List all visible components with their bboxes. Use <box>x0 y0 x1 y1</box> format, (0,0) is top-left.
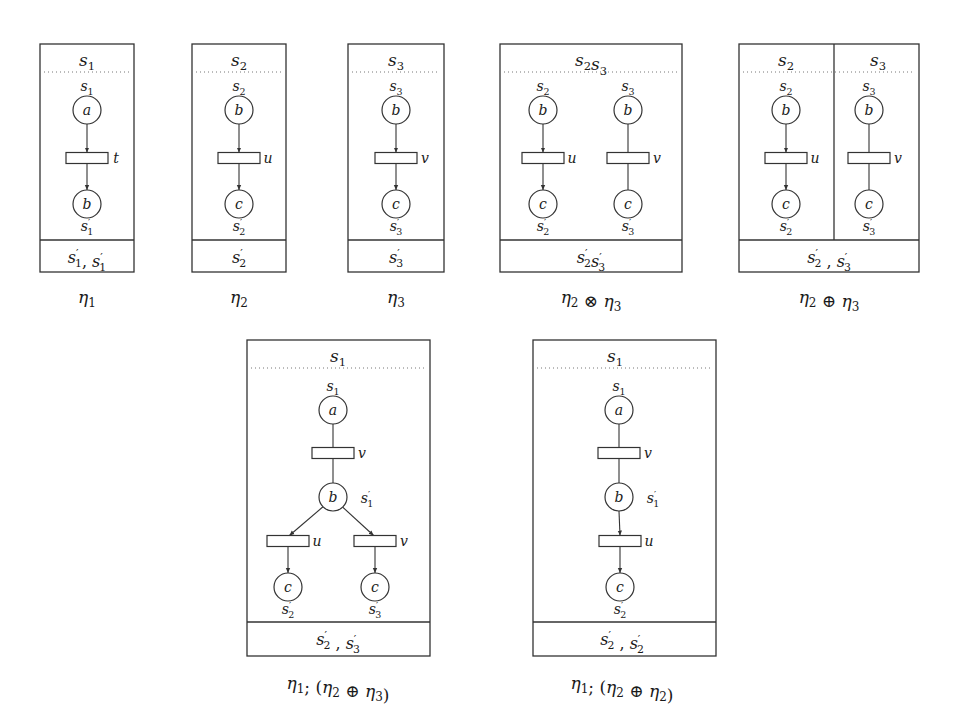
footer-state-label: s′2s′3 <box>577 247 605 274</box>
transition-label: v <box>400 533 408 549</box>
place-label: c <box>539 196 547 212</box>
place-label: b <box>83 196 92 212</box>
panel-caption: η3 <box>387 287 405 310</box>
petri-net-composition-figure: s1s′1, s′1as1tbs′1η1s2s′2bs2ucs′2η2s3s′3… <box>0 0 956 723</box>
transition-label: u <box>810 150 819 166</box>
panel-eta1: s1s′1, s′1as1tbs′1η1 <box>40 44 134 310</box>
place-state-label: s′2 <box>537 217 549 236</box>
place-label: b <box>235 102 244 118</box>
transition-box <box>522 153 564 164</box>
place-label: c <box>235 196 243 212</box>
place-state-label: s′3 <box>369 600 381 619</box>
place-state-label: s′1 <box>647 489 659 508</box>
transition-label: u <box>312 533 321 549</box>
place-state-label: s1 <box>80 78 93 97</box>
transition-box <box>375 153 417 164</box>
place-label: c <box>865 196 873 212</box>
transition-label: v <box>894 150 902 166</box>
header-state-label: s1 <box>330 346 346 369</box>
place-state-label: s2 <box>536 78 549 97</box>
place-label: c <box>371 579 379 595</box>
panel-caption: η1; (η2 ⊕ η2) <box>571 673 674 705</box>
panel-eta1-seq-eta2-oplus-eta3: s1s′2 , s′3as1vbs′1uvcs′2cs′3η1; (η2 ⊕ η… <box>247 340 430 705</box>
footer-state-label: s′2 , s′3 <box>316 629 360 656</box>
footer-state-label: s′3 <box>389 247 403 270</box>
place-state-label: s′2 <box>614 600 626 619</box>
transition-label: u <box>263 150 272 166</box>
transition-box <box>354 536 396 547</box>
place-label: a <box>615 402 623 418</box>
place-state-label: s3 <box>862 78 875 97</box>
transition-box <box>218 153 260 164</box>
place-state-label: s′1 <box>361 489 373 508</box>
place-state-label: s′1 <box>81 217 93 236</box>
place-label: b <box>329 489 338 505</box>
place-label: c <box>782 196 790 212</box>
header-state-label: s3 <box>388 50 404 73</box>
header-state-label: s3 <box>870 50 886 73</box>
transition-box <box>312 448 354 459</box>
flow-arc <box>343 507 374 535</box>
panel-caption: η2 <box>230 287 248 310</box>
place-label: b <box>615 489 624 505</box>
footer-state-label: s′2 <box>232 247 246 270</box>
header-state-label: s2s3 <box>575 50 607 78</box>
footer-state-label: s′2 , s′2 <box>600 629 644 656</box>
transition-box <box>598 448 640 459</box>
place-label: c <box>624 196 632 212</box>
place-label: c <box>616 579 624 595</box>
place-state-label: s′2 <box>780 217 792 236</box>
transition-box <box>267 536 309 547</box>
place-label: b <box>624 102 633 118</box>
panel-eta2: s2s′2bs2ucs′2η2 <box>192 44 286 310</box>
panel-eta3: s3s′3bs3vcs′3η3 <box>348 44 444 310</box>
header-state-label: s2 <box>231 50 247 73</box>
transition-box <box>607 153 649 164</box>
place-label: b <box>782 102 791 118</box>
panels: s1s′1, s′1as1tbs′1η1s2s′2bs2ucs′2η2s3s′3… <box>40 44 919 705</box>
place-state-label: s′2 <box>282 600 294 619</box>
footer-state-label: s′2 , s′3 <box>807 247 851 274</box>
panel-eta1-seq-eta2-oplus-eta2: s1s′2 , s′2as1vbs′1ucs′2η1; (η2 ⊕ η2) <box>533 340 716 705</box>
header-state-label: s1 <box>79 50 95 73</box>
header-state-label: s1 <box>607 346 623 369</box>
place-state-label: s2 <box>779 78 792 97</box>
transition-box <box>599 536 641 547</box>
place-state-label: s′3 <box>390 217 402 236</box>
place-state-label: s3 <box>389 78 402 97</box>
transition-label: u <box>644 533 653 549</box>
footer-state-label: s′1, s′1 <box>68 247 107 274</box>
flow-arc <box>289 507 323 536</box>
transition-box <box>66 153 108 164</box>
place-label: c <box>392 196 400 212</box>
panel-caption: η1 <box>78 287 96 310</box>
place-label: c <box>284 579 292 595</box>
panel-caption: η2 ⊗ η3 <box>561 287 622 314</box>
place-state-label: s3 <box>621 78 634 97</box>
place-state-label: s1 <box>326 378 339 397</box>
transition-box <box>765 153 807 164</box>
panel-caption: η1; (η2 ⊕ η3) <box>287 673 390 705</box>
flow-arc <box>619 511 620 536</box>
place-label: a <box>329 402 337 418</box>
place-label: b <box>865 102 874 118</box>
transition-box <box>848 153 890 164</box>
transition-label: u <box>567 150 576 166</box>
place-label: b <box>539 102 548 118</box>
panel-caption: η2 ⊕ η3 <box>799 287 860 314</box>
transition-label: t <box>113 150 119 166</box>
place-state-label: s′3 <box>622 217 634 236</box>
transition-label: v <box>653 150 661 166</box>
header-state-label: s2 <box>778 50 794 73</box>
panel-eta2-oplus-eta3: s2s3s′2 , s′3bs2ucs′2bs3vcs′3η2 ⊕ η3 <box>739 44 919 314</box>
place-state-label: s2 <box>232 78 245 97</box>
transition-label: v <box>644 445 652 461</box>
place-state-label: s1 <box>612 378 625 397</box>
place-state-label: s′2 <box>233 217 245 236</box>
place-label: a <box>83 102 91 118</box>
place-label: b <box>392 102 401 118</box>
transition-label: v <box>358 445 366 461</box>
place-state-label: s′3 <box>863 217 875 236</box>
transition-label: v <box>421 150 429 166</box>
panel-eta2-tensor-eta3: s2s3s′2s′3bs2ucs′2bs3vcs′3η2 ⊗ η3 <box>500 44 682 314</box>
